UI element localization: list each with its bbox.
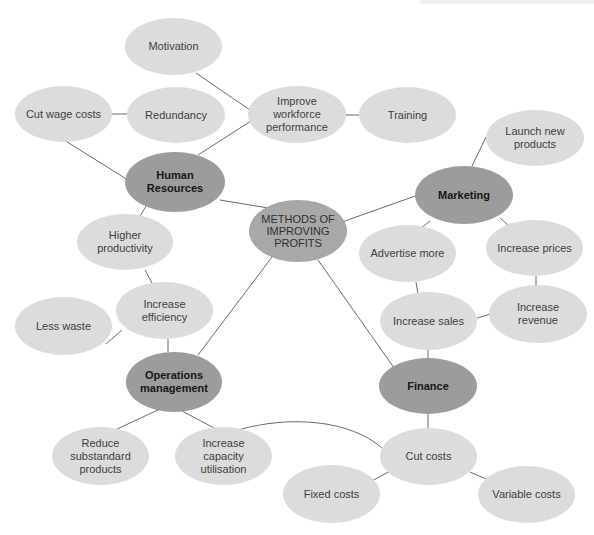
node-launch-new-products: Launch new products — [486, 110, 584, 166]
node-higher-productivity: Higher productivity — [77, 214, 173, 270]
node-less-waste: Less waste — [15, 297, 112, 355]
node-label: Increase revenue — [517, 301, 559, 327]
node-label: Increase sales — [393, 315, 464, 328]
node-label: Fixed costs — [304, 488, 360, 501]
node-label: Reduce substandard products — [70, 437, 131, 476]
node-label: Training — [388, 109, 427, 122]
node-reduce-substandard-products: Reduce substandard products — [52, 427, 149, 485]
node-label: Motivation — [148, 40, 198, 53]
node-advertise-more: Advertise more — [359, 225, 456, 282]
node-label: Operations management — [140, 369, 208, 395]
node-increase-efficiency: Increase efficiency — [116, 282, 213, 339]
node-label: Less waste — [36, 320, 91, 333]
node-label: METHODS OF IMPROVING PROFITS — [261, 213, 334, 249]
node-methods-of-improving-profits: METHODS OF IMPROVING PROFITS — [249, 200, 347, 262]
node-cut-wage-costs: Cut wage costs — [15, 86, 112, 142]
node-label: Increase capacity utilisation — [201, 437, 247, 476]
node-label: Variable costs — [492, 488, 560, 501]
node-label: Higher productivity — [97, 229, 153, 255]
node-marketing: Marketing — [415, 166, 513, 224]
node-increase-revenue: Increase revenue — [489, 285, 587, 343]
node-label: Improve workforce performance — [266, 95, 328, 134]
node-increase-prices: Increase prices — [486, 220, 583, 276]
node-label: Launch new products — [505, 125, 564, 151]
node-label: Cut costs — [406, 450, 452, 463]
node-label: Redundancy — [145, 109, 207, 122]
node-label: Human Resources — [131, 169, 219, 195]
node-motivation: Motivation — [125, 18, 222, 75]
node-redundancy: Redundancy — [127, 87, 225, 143]
node-fixed-costs: Fixed costs — [283, 465, 380, 523]
node-operations-management: Operations management — [126, 352, 222, 412]
node-variable-costs: Variable costs — [478, 466, 575, 523]
node-training: Training — [359, 87, 456, 143]
node-label: Increase efficiency — [122, 298, 207, 324]
node-improve-workforce-performance: Improve workforce performance — [248, 86, 346, 143]
node-cut-costs: Cut costs — [380, 428, 477, 485]
node-human-resources: Human Resources — [125, 152, 225, 212]
node-increase-sales: Increase sales — [380, 292, 477, 350]
node-label: Increase prices — [497, 242, 572, 255]
node-label: Finance — [407, 380, 449, 393]
node-finance: Finance — [379, 358, 477, 414]
node-increase-capacity-utilisation: Increase capacity utilisation — [175, 427, 272, 485]
node-label: Cut wage costs — [26, 108, 101, 121]
node-label: Marketing — [438, 189, 490, 202]
node-label: Advertise more — [371, 247, 445, 260]
